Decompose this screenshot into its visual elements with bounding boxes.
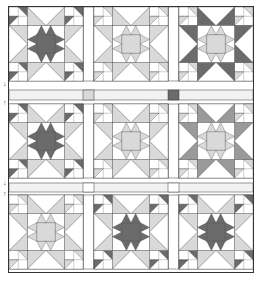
sashing-strip <box>83 7 94 81</box>
quilt-diagram <box>0 0 259 282</box>
sashing-strip <box>83 195 94 269</box>
center-star-core <box>37 223 56 242</box>
center-star-core <box>122 132 141 151</box>
sashing-strip <box>168 7 179 81</box>
arrow-up-icon: ↑ <box>3 99 7 106</box>
sashing-strip <box>9 90 253 100</box>
cornerstone <box>83 90 94 100</box>
arrow-up-icon: ↑ <box>3 190 7 197</box>
sashing-strip <box>168 195 179 269</box>
arrow-down-icon: ↓ <box>3 179 7 186</box>
sashing-strip <box>168 104 179 178</box>
sashing-strip <box>83 104 94 178</box>
center-star-core <box>122 35 141 54</box>
center-star-core <box>37 132 56 151</box>
cornerstone <box>83 183 94 192</box>
quilt-svg <box>0 0 259 282</box>
center-star-core <box>122 223 141 242</box>
center-star-core <box>207 35 226 54</box>
cornerstone <box>168 183 179 192</box>
cornerstone <box>168 90 179 100</box>
sashing-strip <box>9 183 253 192</box>
arrow-down-icon: ↓ <box>3 80 7 87</box>
center-star-core <box>207 132 226 151</box>
center-star-core <box>207 223 226 242</box>
center-star-core <box>37 35 56 54</box>
